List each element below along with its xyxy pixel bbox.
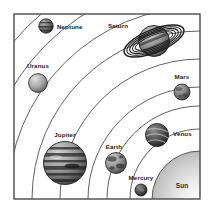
label-earth: Earth	[106, 143, 122, 150]
diagram-interior: Neptune Uranus Saturn Mars Jupiter Venus…	[0, 0, 200, 199]
uranus-body	[29, 74, 48, 93]
planet-mars	[174, 84, 190, 100]
label-venus: Venus	[173, 130, 192, 137]
solar-system-canvas: Neptune Uranus Saturn Mars Jupiter Venus…	[0, 0, 214, 213]
mercury-highlight	[140, 188, 145, 191]
solar-system-diagram: Neptune Uranus Saturn Mars Jupiter Venus…	[0, 0, 214, 213]
planet-venus	[146, 124, 169, 147]
mars-body	[174, 84, 190, 100]
label-mercury: Mercury	[129, 174, 154, 181]
planet-uranus	[29, 74, 48, 93]
planet-earth	[106, 153, 127, 174]
label-neptune: Neptune	[57, 23, 83, 30]
label-sun: Sun	[176, 182, 188, 189]
earth-body	[106, 153, 127, 174]
label-mars: Mars	[175, 73, 190, 80]
label-uranus: Uranus	[27, 62, 49, 69]
label-jupiter: Jupiter	[54, 131, 76, 138]
label-saturn: Saturn	[108, 22, 128, 29]
planet-mercury	[135, 184, 147, 196]
